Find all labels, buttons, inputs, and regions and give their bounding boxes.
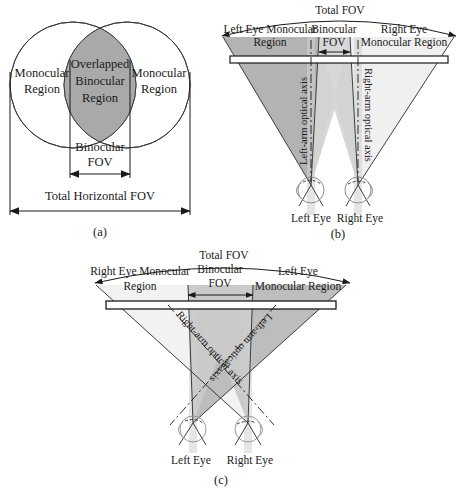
binocular-fov-label-line2: FOV [322, 36, 346, 48]
right-monocular-label-line2: Monocular Region [361, 36, 448, 49]
display-bar [106, 301, 336, 309]
left-monocular-label-line1: Right Eye Monocular [90, 265, 190, 278]
panel-c: Total FOV Binocular FOV Right Eye Monocu… [78, 243, 403, 490]
overlapped-label-line2: Binocular [75, 74, 125, 88]
binocular-fov-label-line1: Binocular [311, 23, 357, 35]
binocular-fov-label-line2: FOV [208, 277, 232, 289]
left-eye-label: Left Eye [291, 212, 331, 225]
left-monocular-label-line2: Region [253, 36, 286, 49]
left-monocular-label-line1: Monocular [15, 66, 71, 80]
total-fov-label: Total FOV [199, 249, 249, 261]
panel-c-svg: Total FOV Binocular FOV Right Eye Monocu… [78, 243, 403, 490]
panel-a: Binocular FOV Total Horizontal FOV Monoc… [0, 0, 210, 240]
left-eye-label: Left Eye [171, 454, 211, 467]
right-optical-axis-label: Right-arm optical axis [363, 68, 374, 162]
left-monocular-label-line2: Region [24, 82, 61, 96]
display-bar [230, 56, 448, 63]
panel-b-svg: Total FOV Binocular FOV Left Eye Monocul… [208, 0, 473, 240]
panel-c-caption: (c) [214, 473, 228, 487]
right-monocular-label-line1: Right Eye [381, 23, 427, 36]
left-optical-axis-label: Left-arm optical axis [298, 77, 309, 165]
left-monocular-label-line2: Region [123, 280, 156, 293]
binocular-fov-label-line2: FOV [87, 155, 112, 169]
right-monocular-label-line2: Monocular Region [255, 280, 342, 293]
panel-a-svg: Binocular FOV Total Horizontal FOV Monoc… [0, 0, 210, 240]
overlapped-label-line3: Region [82, 91, 119, 105]
right-eye-label: Right Eye [227, 454, 273, 467]
total-fov-label: Total FOV [315, 4, 365, 16]
binocular-fov-label-line1: Binocular [197, 263, 243, 275]
right-monocular-label-line1: Left Eye [278, 265, 318, 278]
right-monocular-label-line2: Region [141, 82, 178, 96]
panel-a-caption: (a) [93, 225, 107, 239]
right-eye-label: Right Eye [337, 212, 383, 225]
right-monocular-label-line1: Monocular [132, 66, 188, 80]
total-horizontal-fov-label: Total Horizontal FOV [45, 189, 155, 203]
binocular-fov-label-line1: Binocular [75, 140, 125, 154]
panel-b: Total FOV Binocular FOV Left Eye Monocul… [208, 0, 473, 240]
overlapped-label-line1: Overlapped [71, 57, 130, 71]
left-monocular-label-line1: Left Eye Monocular [223, 23, 316, 36]
panel-b-caption: (b) [331, 227, 346, 241]
